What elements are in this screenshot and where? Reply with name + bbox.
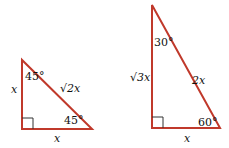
angle-bottom-right-label: 45° bbox=[64, 114, 84, 127]
triangle-45-45-90: 45° 45° x x √2x bbox=[11, 60, 92, 145]
angle-top-label: 45° bbox=[25, 70, 45, 83]
triangle-30-60-90: 30° 60° √3x x 2x bbox=[130, 5, 220, 145]
hypotenuse-label: 2x bbox=[191, 74, 206, 87]
leg-vertical-label: √3x bbox=[130, 71, 151, 84]
right-angle-marker bbox=[152, 117, 163, 128]
angle-top-label: 30° bbox=[154, 36, 174, 49]
angle-bottom-right-label: 60° bbox=[198, 116, 218, 129]
hypotenuse-label: √2x bbox=[60, 82, 81, 95]
leg-horizontal-label: x bbox=[54, 132, 61, 145]
right-angle-marker bbox=[22, 118, 33, 129]
leg-horizontal-label: x bbox=[184, 132, 191, 145]
triangle-outline bbox=[152, 5, 220, 128]
triangles-diagram: 45° 45° x x √2x 30° 60° √3x x 2x bbox=[0, 0, 229, 148]
leg-vertical-label: x bbox=[11, 83, 18, 96]
